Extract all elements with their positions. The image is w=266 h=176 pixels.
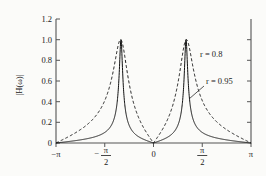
annotation-r-0-8-label: r = 0.8 [200, 49, 223, 59]
y-tick-label-0-8: 0.8 [41, 55, 52, 65]
y-axis-title-text: |H(ω)| [14, 74, 24, 95]
x-tick-neg-sign: − [95, 148, 100, 158]
x-tick-label-pi: π [249, 149, 254, 159]
y-tick-label-0-2: 0.2 [41, 117, 52, 127]
y-tick-label-1-0: 1.0 [41, 35, 52, 45]
x-tick-label-half-pi: π 2 [197, 145, 207, 167]
x-tick-label-neg-pi: −π [51, 149, 61, 159]
y-tick-labels: 1.2 1.0 0.8 0.6 0.4 0.2 0 [41, 14, 52, 148]
x-tick-half-denominator: 2 [200, 157, 204, 167]
y-tick-marks [56, 19, 60, 143]
x-tick-neg-half-denominator: 2 [104, 157, 108, 167]
annotation-leader-line [189, 86, 204, 99]
y-tick-label-0-4: 0.4 [41, 97, 52, 107]
x-tick-neg-half-numerator: π [104, 145, 109, 155]
annotation-r-0-8: r = 0.8 [200, 49, 223, 59]
x-tick-label-zero: 0 [151, 149, 155, 159]
y-tick-label-1-2: 1.2 [41, 14, 52, 24]
annotation-r-0-95-label: r = 0.95 [206, 76, 233, 86]
x-tick-labels: −π − π 2 0 π 2 π [51, 145, 253, 167]
y-tick-marks-right [247, 40, 251, 123]
frequency-response-chart: 1.2 1.0 0.8 0.6 0.4 0.2 0 |H(ω)| −π − π … [0, 0, 266, 176]
x-tick-half-numerator: π [200, 145, 205, 155]
y-axis-title: |H(ω)| [14, 74, 24, 95]
y-tick-label-0: 0 [48, 138, 52, 148]
x-tick-label-neg-half-pi: − π 2 [95, 145, 111, 167]
y-tick-label-0-6: 0.6 [41, 76, 52, 86]
